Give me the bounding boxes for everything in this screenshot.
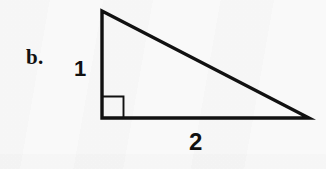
vertical-leg-length-label: 1 xyxy=(74,58,86,80)
right-angle-marker-icon xyxy=(102,97,124,119)
part-label: b. xyxy=(26,47,43,68)
horizontal-leg-length-label: 2 xyxy=(189,130,202,154)
figure-canvas: b. 1 2 xyxy=(0,0,326,169)
right-triangle-shape xyxy=(0,0,326,169)
triangle-outline xyxy=(102,11,309,118)
